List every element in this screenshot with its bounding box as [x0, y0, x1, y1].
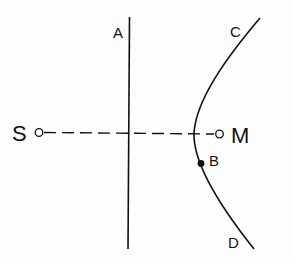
- diagram: S M A B C D: [0, 0, 293, 263]
- curve-cd: [194, 18, 260, 249]
- point-m-circle: [216, 130, 224, 138]
- label-d: D: [228, 234, 239, 251]
- label-b: B: [209, 152, 219, 169]
- label-c: C: [230, 23, 241, 40]
- point-s-circle: [35, 129, 43, 137]
- label-s: S: [12, 121, 27, 146]
- diagram-canvas: S M A B C D: [0, 0, 293, 263]
- line-a: [128, 17, 130, 249]
- label-a: A: [113, 24, 123, 41]
- point-b-dot: [198, 160, 205, 167]
- label-m: M: [231, 123, 249, 148]
